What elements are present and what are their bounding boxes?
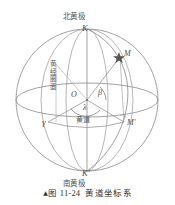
label-origin-o: O: [71, 91, 77, 99]
longitude-circle-char-4: 面: [49, 84, 58, 92]
label-pole-symbol-k-prime: K': [82, 169, 90, 178]
label-north-ecliptic-pole: 北黄极: [63, 13, 85, 21]
caption-figure-number: 图 11-24: [48, 188, 80, 198]
label-vernal-equinox: γ: [42, 118, 46, 127]
radius-to-projection: [87, 100, 124, 122]
label-ecliptic-latitude-beta: β: [98, 89, 102, 97]
figure-caption: ▲图 11-24黄道坐标系: [0, 186, 175, 198]
label-longitude-circle-plane: 黄 经 圈 面: [49, 61, 58, 91]
label-star-point-m: M: [124, 50, 131, 58]
label-ecliptic-plane: 黄道: [76, 117, 90, 124]
label-pole-symbol-k: K: [82, 24, 88, 33]
ecliptic-coordinate-figure: 北黄极 K 南黄极 K' M M' γ O β λ 黄道 黄 经 圈 面 ▲图 …: [0, 0, 175, 205]
longitude-circle-through-M: [87, 29, 128, 171]
radius-to-star: [87, 57, 120, 100]
label-ecliptic-longitude-lambda: λ: [83, 104, 86, 112]
label-star-projection-m-prime: M': [127, 119, 135, 127]
origin-dot: [86, 99, 88, 101]
caption-figure-title: 黄道坐标系: [85, 188, 132, 198]
